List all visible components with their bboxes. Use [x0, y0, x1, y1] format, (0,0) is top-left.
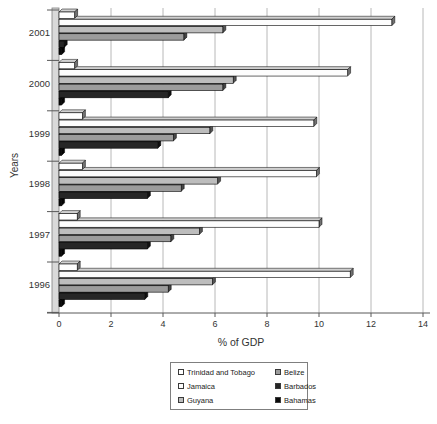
x-tick-label-12: 12 [366, 319, 376, 329]
bar-front-face [59, 135, 173, 141]
legend-item-guyana: Guyana [178, 396, 275, 405]
bar-front-face [59, 221, 319, 227]
legend-swatch-bahamas [275, 397, 281, 403]
bar-front-face [59, 113, 82, 119]
bar-jamaica-2001 [59, 16, 395, 25]
bar-front-face [59, 279, 212, 285]
bar-front-face [59, 293, 145, 299]
bar-front-face [59, 243, 147, 249]
bar-front-face [59, 228, 199, 234]
bar-jamaica-2000 [59, 67, 351, 76]
bar-front-face [59, 99, 62, 105]
x-tick-label-0: 0 [56, 319, 61, 329]
bar-top-face [59, 117, 317, 120]
x-tick-label-8: 8 [264, 319, 269, 329]
bar-top-face [59, 110, 85, 113]
bar-top-face [59, 16, 395, 19]
x-tick-label-14: 14 [418, 319, 428, 329]
legend-label-belize: Belize [284, 368, 304, 377]
bar-top-face [59, 261, 80, 264]
legend-swatch-trinidad-and-tobago [178, 369, 184, 375]
bar-top-face [59, 218, 322, 221]
bar-front-face [59, 250, 62, 256]
bar-front-face [59, 27, 223, 33]
bar-front-face [59, 62, 75, 68]
bar-front-face [59, 192, 147, 198]
bar-jamaica-1996 [59, 268, 353, 277]
legend-swatch-guyana [178, 397, 184, 403]
legend-item-jamaica: Jamaica [178, 382, 275, 391]
bar-top-face [59, 67, 351, 70]
plot-area: 20012000199919981997199602468101214 [0, 0, 437, 334]
legend-label-guyana: Guyana [187, 396, 213, 405]
bar-top-face [59, 160, 85, 163]
bar-jamaica-1997 [59, 218, 322, 227]
bar-front-face [59, 84, 223, 90]
bar-front-face [59, 149, 62, 155]
bar-front-face [59, 41, 64, 47]
legend-label-trinidad-and-tobago: Trinidad and Tobago [187, 368, 255, 377]
bar-jamaica-1999 [59, 117, 317, 126]
y-axis-title: Years [9, 136, 20, 196]
bar-front-face [59, 91, 168, 97]
bar-front-face [59, 170, 316, 176]
bar-front-face [59, 264, 77, 270]
bar-front-face [59, 127, 210, 133]
axis-wall-3d [52, 8, 59, 313]
legend-swatch-belize [275, 369, 281, 375]
bar-front-face [59, 142, 158, 148]
bar-front-face [59, 120, 314, 126]
bar-front-face [59, 185, 181, 191]
bar-front-face [59, 199, 62, 205]
bar-front-face [59, 48, 62, 54]
legend-item-barbados: Barbados [275, 382, 316, 391]
legend-label-bahamas: Bahamas [284, 396, 316, 405]
bar-trinidad-and-tobago-1999 [59, 110, 85, 119]
legend-label-barbados: Barbados [284, 382, 316, 391]
legend-item-bahamas: Bahamas [275, 396, 316, 405]
bar-trinidad-and-tobago-1996 [59, 261, 80, 270]
bar-front-face [59, 286, 168, 292]
bar-front-face [59, 163, 82, 169]
legend-item-belize: Belize [275, 368, 316, 377]
legend-swatch-barbados [275, 383, 281, 389]
bar-trinidad-and-tobago-1998 [59, 160, 85, 169]
legend-box: Trinidad and TobagoBelizeJamaicaBarbados… [170, 362, 308, 410]
x-tick-label-4: 4 [160, 319, 165, 329]
x-tick-label-10: 10 [314, 319, 324, 329]
bar-front-face [59, 70, 348, 76]
year-label-2000: 2000 [29, 78, 50, 89]
x-tick-label-2: 2 [108, 319, 113, 329]
bar-front-face [59, 34, 184, 40]
bar-front-face [59, 12, 75, 18]
bar-top-face [59, 268, 353, 271]
gridlines [111, 8, 423, 313]
x-axis-title: % of GDP [59, 336, 423, 348]
bar-front-face [59, 271, 350, 277]
bar-front-face [59, 300, 62, 306]
bar-front-face [59, 19, 392, 25]
legend-swatch-jamaica [178, 383, 184, 389]
year-label-1997: 1997 [29, 229, 50, 240]
legend-item-trinidad-and-tobago: Trinidad and Tobago [178, 368, 275, 377]
chart-container: 20012000199919981997199602468101214 Year… [0, 0, 437, 424]
legend-label-jamaica: Jamaica [187, 382, 215, 391]
bar-top-face [59, 167, 319, 170]
bar-top-face [59, 211, 80, 214]
year-label-2001: 2001 [29, 27, 50, 38]
bar-trinidad-and-tobago-1997 [59, 211, 80, 220]
bar-front-face [59, 77, 233, 83]
year-label-1998: 1998 [29, 178, 50, 189]
year-label-1999: 1999 [29, 128, 50, 139]
bar-front-face [59, 235, 171, 241]
x-tick-label-6: 6 [212, 319, 217, 329]
year-label-1996: 1996 [29, 279, 50, 290]
bar-front-face [59, 178, 218, 184]
bar-trinidad-and-tobago-2000 [59, 59, 78, 68]
bar-trinidad-and-tobago-2001 [59, 9, 78, 18]
bar-jamaica-1998 [59, 167, 319, 176]
bar-front-face [59, 214, 77, 220]
